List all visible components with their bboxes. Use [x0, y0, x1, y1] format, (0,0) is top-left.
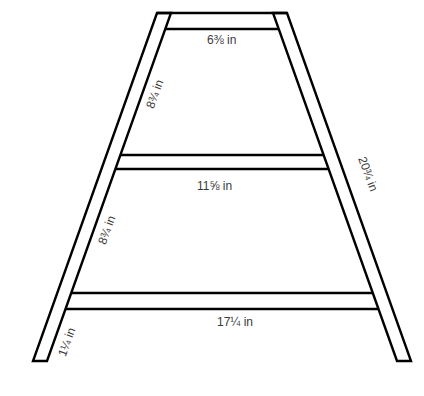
- top-rung-label: 6⅜ in: [207, 34, 236, 46]
- middle-rung-label: 11⅝ in: [197, 180, 232, 192]
- ladder-diagram: 6⅜ in 8¾ in 20¾ in 11⅝ in 8¾ in 17¼ in 1…: [0, 0, 424, 396]
- bottom-rung-label: 17¼ in: [217, 316, 253, 328]
